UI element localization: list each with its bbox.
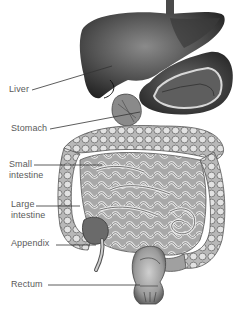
- stomach-label: Stomach: [11, 123, 47, 134]
- digestive-organs-illustration: [0, 0, 239, 310]
- appendix-label: Appendix: [11, 238, 49, 249]
- duodenum: [112, 94, 141, 126]
- digestive-system-diagram: Liver Stomach Small intestine Large inte…: [0, 0, 239, 310]
- large-intestine-label-line2: intestine: [11, 210, 45, 221]
- small-intestine-label: Small intestine: [9, 159, 43, 181]
- large-intestine-label: Large intestine: [11, 199, 45, 221]
- liver-label: Liver: [9, 84, 29, 95]
- rectum-organ: [132, 246, 165, 304]
- small-intestine-label-line1: Small: [9, 159, 43, 170]
- rectum-label: Rectum: [11, 279, 43, 290]
- large-intestine-label-line1: Large: [11, 199, 45, 210]
- small-intestine-label-line2: intestine: [9, 170, 43, 181]
